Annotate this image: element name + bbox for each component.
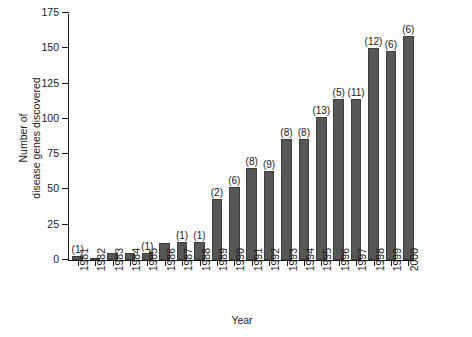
- y-axis-tick: 100: [62, 118, 69, 119]
- x-axis-tick-label-text: 1984: [130, 248, 142, 288]
- x-axis-tick-label-text: 1997: [356, 248, 368, 288]
- y-axis-tick: 125: [62, 83, 69, 84]
- x-axis-tick-label-text: 1981: [78, 248, 90, 288]
- y-axis-tick-label: 75: [47, 147, 59, 159]
- y-axis-tick: 0: [62, 259, 69, 260]
- bar-annotation: (11): [348, 87, 365, 98]
- bar-annotation: (8): [280, 127, 292, 138]
- bar: (8): [246, 168, 257, 260]
- x-axis-tick-label-text: 1993: [287, 248, 299, 288]
- bar: (6): [386, 51, 397, 260]
- x-axis-tick-label-text: 1982: [95, 248, 107, 288]
- x-axis-tick-label-text: 1991: [252, 248, 264, 288]
- y-axis-tick-label: 25: [47, 218, 59, 230]
- y-axis-tick-label: 150: [41, 41, 59, 53]
- plot-area: 0255075100125150175 (1)(1)(1)(1)(2)(6)(8…: [68, 14, 416, 261]
- x-axis-tick-label-text: 1992: [269, 248, 281, 288]
- x-axis-tick-label-text: 1994: [304, 248, 316, 288]
- y-axis-tick: 75: [62, 153, 69, 154]
- y-axis-tick-label: 125: [41, 77, 59, 89]
- x-axis-title: Year: [68, 314, 416, 326]
- x-axis-tick-label-text: 1996: [339, 248, 351, 288]
- bar: (13): [316, 117, 327, 260]
- bar-annotation: (1): [193, 230, 205, 241]
- bar-annotation: (9): [263, 159, 275, 170]
- bar-annotation: (2): [211, 187, 223, 198]
- y-axis-tick: 150: [62, 47, 69, 48]
- x-axis-tick-label-text: 1995: [321, 248, 333, 288]
- x-axis-tick-label-text: 2000: [408, 248, 420, 288]
- y-axis-title-line2: disease genes discovered: [29, 77, 42, 198]
- bar: (5): [333, 99, 344, 260]
- bar-annotation: (6): [385, 39, 397, 50]
- y-axis-tick: 25: [62, 224, 69, 225]
- y-axis-tick: 50: [62, 188, 69, 189]
- y-axis-tick: 175: [62, 12, 69, 13]
- x-axis-tick-label-text: 1999: [391, 248, 403, 288]
- y-axis-tick-label: 0: [53, 253, 59, 265]
- x-axis-tick-label-text: 1983: [113, 248, 125, 288]
- y-axis-tick-label: 175: [41, 6, 59, 18]
- bar: (9): [264, 171, 275, 260]
- bar-annotation: (12): [365, 36, 383, 47]
- y-axis-title-line1: Number of: [17, 77, 30, 198]
- bar: (11): [351, 99, 362, 260]
- x-axis-tick-label-text: 1985: [147, 248, 159, 288]
- bar-annotation: (6): [402, 24, 414, 35]
- x-axis-tick-label-text: 1990: [234, 248, 246, 288]
- y-axis-tick-label: 50: [47, 182, 59, 194]
- bar: (8): [281, 139, 292, 260]
- x-axis-tick-label-text: 1988: [200, 248, 212, 288]
- bar-annotation: (1): [176, 230, 188, 241]
- x-axis-tick-label-text: 1989: [217, 248, 229, 288]
- x-axis-tick-label-text: 1986: [165, 248, 177, 288]
- bar-annotation: (8): [298, 127, 310, 138]
- bar-annotation: (6): [228, 175, 240, 186]
- bar: (12): [368, 48, 379, 260]
- bar-annotation: (8): [246, 156, 258, 167]
- x-axis-tick-label-text: 1998: [374, 248, 386, 288]
- bar-annotation: (5): [333, 87, 345, 98]
- x-axis-tick-label-text: 1987: [182, 248, 194, 288]
- y-axis-tick-label: 100: [41, 112, 59, 124]
- bar: (6): [403, 36, 414, 260]
- bar-chart-figure: Number of disease genes discovered 02550…: [0, 0, 472, 337]
- bar-annotation: (13): [312, 105, 330, 116]
- bar: (8): [299, 139, 310, 260]
